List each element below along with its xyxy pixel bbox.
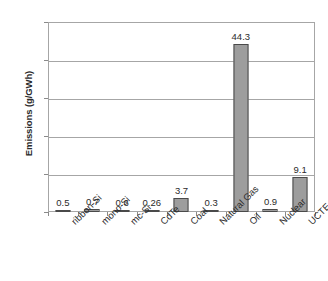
- bar-value-label: 3.7: [175, 185, 188, 196]
- bar-value-label: 0.5: [56, 197, 69, 208]
- x-axis-label-cdte: CdTe: [158, 219, 166, 227]
- bar-group: 0.26: [137, 22, 167, 212]
- bar-value-label: 0.9: [264, 196, 277, 207]
- x-axis-label-ucte-avg: UCTE avg.: [306, 219, 314, 227]
- x-axis-label-nuclear: Nuclear: [277, 219, 285, 227]
- bar-value-label: 44.3: [232, 31, 251, 42]
- bars-layer: 0.50.70.60.263.70.344.30.99.1: [48, 22, 315, 212]
- x-axis-label-natural-gas: Natural Gas: [217, 219, 225, 227]
- bar-group: 0.5: [48, 22, 78, 212]
- x-axis-label-mc-si: mc-Si: [128, 219, 136, 227]
- bar-group: 0.9: [256, 22, 286, 212]
- x-axis-label-mono-si: mono-Si: [99, 219, 107, 227]
- bar[interactable]: [55, 210, 70, 212]
- bar-group: 0.6: [107, 22, 137, 212]
- bar-value-label: 9.1: [294, 164, 307, 175]
- x-tick-mark-0: [48, 212, 49, 216]
- bar-group: 9.1: [285, 22, 315, 212]
- bar-group: 0.3: [196, 22, 226, 212]
- bar[interactable]: [263, 209, 278, 212]
- bar-value-label: 0.3: [205, 197, 218, 208]
- y-axis-title: Emissions (g/GWh): [23, 39, 34, 189]
- x-axis-label-ribbon-si: ribbon-Si: [69, 219, 77, 227]
- x-axis-label-coal: Coal: [188, 219, 196, 227]
- bar[interactable]: [233, 44, 248, 212]
- x-axis-label-oil: Oil: [247, 219, 255, 227]
- bar-group: 3.7: [167, 22, 197, 212]
- bar-group: 0.7: [78, 22, 108, 212]
- emissions-bar-chart: Emissions (g/GWh) 01020304050 0.50.70.60…: [0, 0, 328, 281]
